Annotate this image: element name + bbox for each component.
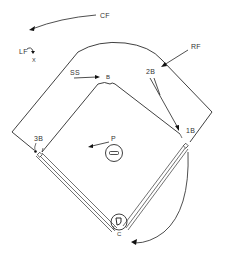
label-3b: 3B [34, 135, 43, 142]
ss-movement-arrow [74, 77, 97, 78]
label-cf: CF [100, 12, 110, 19]
lf-arrow-head [31, 51, 35, 54]
outfield-outline [12, 42, 212, 142]
label-second-base-marker: B [106, 74, 110, 80]
baseline-third-home [36, 153, 117, 232]
rf-movement-arrow [164, 50, 188, 65]
label-1b: 1B [186, 127, 195, 134]
label-lf: LF [19, 48, 28, 55]
lf-movement-arrow [27, 48, 33, 51]
label-lf-x: X [32, 57, 36, 63]
ss-arrow-head [95, 75, 100, 79]
2b-to-1b-line-a [150, 78, 178, 128]
p-arrow-head [88, 144, 93, 148]
label-2b: 2B [146, 68, 155, 75]
first-base-bag [183, 143, 188, 148]
infield-corner-1b [180, 134, 182, 138]
label-p: P [111, 135, 116, 142]
3b-marker-line [35, 143, 36, 151]
1b-backup-arrow-head [131, 239, 137, 245]
baseline-first-home [123, 145, 188, 230]
baseball-field-diagram: CF LF X RF SS B 2B 3B 1B P C [0, 0, 230, 258]
1b-backup-arrow [135, 152, 188, 243]
p-movement-arrow [92, 142, 109, 146]
third-base-bag [37, 152, 42, 157]
label-c: C [117, 231, 122, 237]
left-outline [12, 132, 34, 150]
home-plate-catcher-icon [116, 218, 121, 225]
label-ss: SS [70, 69, 80, 76]
3b-player-dot [34, 150, 37, 153]
rf-arrow-head [161, 62, 167, 67]
cf-arrow-head [29, 26, 35, 31]
label-rf: RF [191, 43, 201, 50]
cf-movement-arrow [32, 15, 96, 29]
pitchers-rubber [110, 152, 119, 155]
